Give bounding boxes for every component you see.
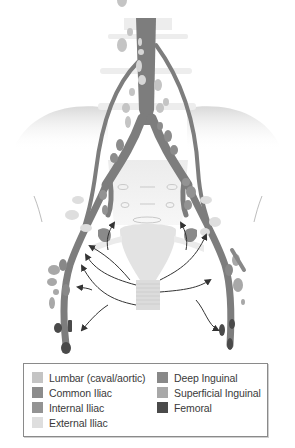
swatch-internal-iliac xyxy=(32,402,43,413)
swatch-femoral xyxy=(157,402,168,413)
legend-item-femoral: Femoral xyxy=(157,400,261,415)
legend-label: External Iliac xyxy=(49,417,108,429)
legend-item-lumbar: Lumbar (caval/aortic) xyxy=(32,370,146,385)
anatomical-diagram xyxy=(0,0,295,360)
legend: Lumbar (caval/aortic) Common Iliac Inter… xyxy=(23,363,268,437)
legend-item-superficial-inguinal: Superficial Inguinal xyxy=(157,385,261,400)
iliac-wing-right xyxy=(187,106,281,150)
iliac-wing-left xyxy=(14,106,108,150)
legend-label: Internal Iliac xyxy=(49,402,104,414)
legend-item-deep-inguinal: Deep Inguinal xyxy=(157,370,261,385)
swatch-lumbar xyxy=(32,372,43,383)
legend-column-right: Deep Inguinal Superficial Inguinal Femor… xyxy=(157,370,261,415)
legend-label: Superficial Inguinal xyxy=(174,387,261,399)
legend-label: Femoral xyxy=(174,402,212,414)
ovary-left xyxy=(98,228,111,242)
legend-item-internal-iliac: Internal Iliac xyxy=(32,400,146,415)
legend-label: Common Iliac xyxy=(49,387,112,399)
swatch-superficial-inguinal xyxy=(157,387,168,398)
legend-item-common-iliac: Common Iliac xyxy=(32,385,146,400)
legend-column-left: Lumbar (caval/aortic) Common Iliac Inter… xyxy=(32,370,146,430)
legend-label: Deep Inguinal xyxy=(174,372,238,384)
femoral-nodes xyxy=(54,319,235,354)
legend-item-external-iliac: External Iliac xyxy=(32,415,146,430)
legend-label: Lumbar (caval/aortic) xyxy=(49,372,146,384)
swatch-external-iliac xyxy=(32,417,43,428)
swatch-deep-inguinal xyxy=(157,372,168,383)
cervix xyxy=(136,280,160,310)
swatch-common-iliac xyxy=(32,387,43,398)
